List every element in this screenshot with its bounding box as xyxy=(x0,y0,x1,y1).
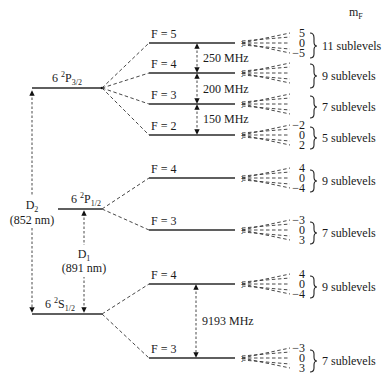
splitting-150mhz: 150 MHz xyxy=(203,112,249,126)
sublevels-s12-f4: 9 sublevels xyxy=(322,280,376,294)
splitting-9193mhz: 9193 MHz xyxy=(202,314,254,328)
splitting-200mhz: 200 MHz xyxy=(203,82,249,96)
sublevels-s12-f3: 7 sublevels xyxy=(322,354,376,368)
mf-header: mF xyxy=(349,5,363,21)
sublevels-p32-f4: 9 sublevels xyxy=(322,69,376,83)
hf-label-p12-f3: F = 3 xyxy=(151,214,176,228)
hf-label-s12-f3: F = 3 xyxy=(151,342,176,356)
sublevel-braces xyxy=(310,33,317,372)
d1-wavelength: (891 nm) xyxy=(62,261,106,275)
svg-text:−4: −4 xyxy=(292,287,305,301)
svg-text:2: 2 xyxy=(299,138,305,152)
hf-label-p32-f2: F = 2 xyxy=(151,119,176,133)
sublevels-p32-f2: 5 sublevels xyxy=(322,131,376,145)
sublevels-p12-f3: 7 sublevels xyxy=(322,226,376,240)
svg-text:−4: −4 xyxy=(292,181,305,195)
label-6s12: 62S1/2 xyxy=(45,296,75,313)
splitting-250mhz: 250 MHz xyxy=(203,51,249,65)
hf-label-p32-f4: F = 4 xyxy=(151,57,176,71)
sublevels-p12-f4: 9 sublevels xyxy=(322,174,376,188)
d2-wavelength: (852 nm) xyxy=(10,213,54,227)
energy-level-diagram: mF 62P3/2 62P1/2 62S1/2 D2 (852 nm) D1 (… xyxy=(0,0,385,386)
hf-label-p32-f5: F = 5 xyxy=(151,27,176,41)
fine-to-hyperfine-connectors xyxy=(102,43,149,358)
label-6p12: 62P1/2 xyxy=(71,191,101,208)
sublevels-p32-f5: 11 sublevels xyxy=(322,39,382,53)
hf-label-p32-f3: F = 3 xyxy=(151,88,176,102)
hf-label-p12-f4: F = 4 xyxy=(151,162,176,176)
svg-text:−5: −5 xyxy=(292,46,305,60)
hf-label-s12-f4: F = 4 xyxy=(151,268,176,282)
sublevels-p32-f3: 7 sublevels xyxy=(322,100,376,114)
svg-text:3: 3 xyxy=(299,233,305,247)
svg-text:3: 3 xyxy=(299,361,305,375)
mf-values: 5 0 −5 −2 0 2 4 0 −4 −3 0 3 4 0 −4 −3 0 … xyxy=(292,26,305,375)
label-6p32: 62P3/2 xyxy=(52,70,82,87)
